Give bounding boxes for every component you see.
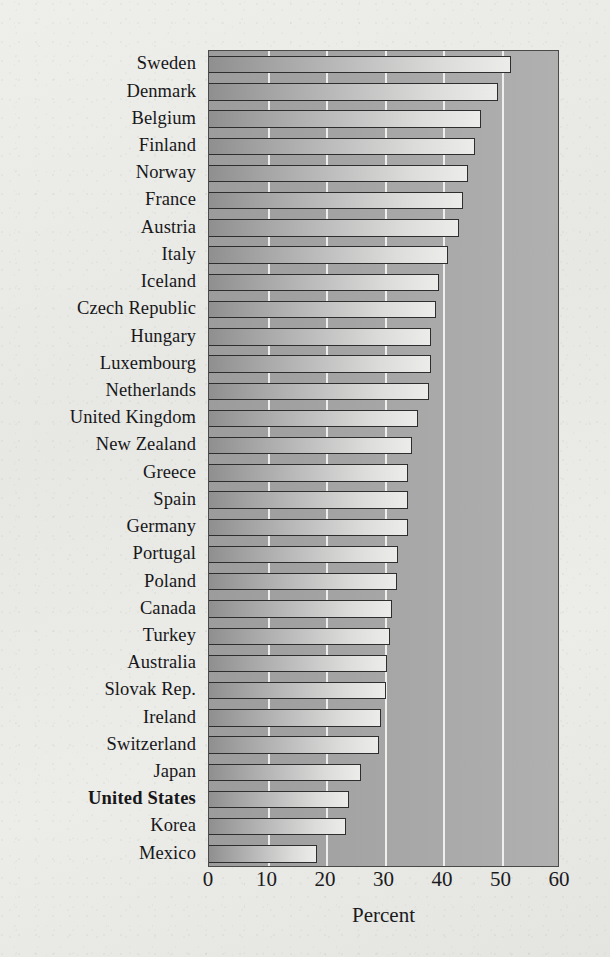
bar-row	[209, 731, 558, 758]
bar-mexico	[209, 845, 317, 862]
value-axis-ticks: 0102030405060	[208, 869, 559, 899]
bar-turkey	[209, 628, 390, 645]
category-label-poland: Poland	[0, 567, 202, 594]
category-axis-labels: SwedenDenmarkBelgiumFinlandNorwayFranceA…	[0, 50, 202, 867]
category-label-turkey: Turkey	[0, 622, 202, 649]
category-label-luxembourg: Luxembourg	[0, 349, 202, 376]
bar-row	[209, 541, 558, 568]
bar-row	[209, 323, 558, 350]
bar-row	[209, 595, 558, 622]
bar-iceland	[209, 274, 439, 291]
x-axis-title: Percent	[208, 903, 559, 928]
bar-ireland	[209, 709, 381, 726]
bar-portugal	[209, 546, 398, 563]
bar-korea	[209, 818, 346, 835]
bar-row	[209, 677, 558, 704]
bar-row	[209, 405, 558, 432]
bar-slovak-rep	[209, 682, 386, 699]
bar-row	[209, 759, 558, 786]
bar-row	[209, 514, 558, 541]
bar-row	[209, 350, 558, 377]
bar-row	[209, 187, 558, 214]
category-label-korea: Korea	[0, 812, 202, 839]
bar-row	[209, 160, 558, 187]
bar-united-states	[209, 791, 349, 808]
bar-germany	[209, 519, 408, 536]
category-label-ireland: Ireland	[0, 703, 202, 730]
bar-new-zealand	[209, 437, 412, 454]
bar-row	[209, 214, 558, 241]
x-tick-label-50: 50	[490, 869, 511, 890]
category-label-iceland: Iceland	[0, 268, 202, 295]
bar-spain	[209, 491, 408, 508]
bar-canada	[209, 600, 392, 617]
bar-finland	[209, 138, 475, 155]
category-label-austria: Austria	[0, 213, 202, 240]
bar-row	[209, 105, 558, 132]
category-label-mexico: Mexico	[0, 839, 202, 866]
category-label-united-states: United States	[0, 785, 202, 812]
category-label-united-kingdom: United Kingdom	[0, 404, 202, 431]
category-label-slovak-rep: Slovak Rep.	[0, 676, 202, 703]
bar-row	[209, 78, 558, 105]
bar-row	[209, 51, 558, 78]
bar-row	[209, 432, 558, 459]
bar-row	[209, 786, 558, 813]
bar-row	[209, 269, 558, 296]
bar-austria	[209, 219, 459, 236]
plot-area	[208, 50, 559, 867]
bar-chart: SwedenDenmarkBelgiumFinlandNorwayFranceA…	[0, 0, 610, 957]
bar-row	[209, 568, 558, 595]
bar-united-kingdom	[209, 410, 418, 427]
bar-australia	[209, 655, 387, 672]
bar-norway	[209, 165, 468, 182]
bar-row	[209, 813, 558, 840]
bar-luxembourg	[209, 355, 431, 372]
bar-row	[209, 487, 558, 514]
x-tick-label-10: 10	[256, 869, 277, 890]
bar-italy	[209, 246, 448, 263]
x-tick-label-60: 60	[549, 869, 570, 890]
category-label-greece: Greece	[0, 458, 202, 485]
bar-row	[209, 459, 558, 486]
bar-row	[209, 704, 558, 731]
bar-switzerland	[209, 736, 379, 753]
x-tick-label-0: 0	[203, 869, 214, 890]
x-tick-label-40: 40	[432, 869, 453, 890]
bar-row	[209, 650, 558, 677]
bar-czech-republic	[209, 301, 436, 318]
bar-row	[209, 840, 558, 867]
category-label-canada: Canada	[0, 594, 202, 621]
category-label-japan: Japan	[0, 758, 202, 785]
x-tick-label-30: 30	[373, 869, 394, 890]
category-label-italy: Italy	[0, 241, 202, 268]
category-label-france: France	[0, 186, 202, 213]
category-label-portugal: Portugal	[0, 540, 202, 567]
category-label-czech-republic: Czech Republic	[0, 295, 202, 322]
category-label-australia: Australia	[0, 649, 202, 676]
category-label-norway: Norway	[0, 159, 202, 186]
category-label-sweden: Sweden	[0, 50, 202, 77]
bar-row	[209, 296, 558, 323]
bar-france	[209, 192, 463, 209]
category-label-netherlands: Netherlands	[0, 377, 202, 404]
category-label-hungary: Hungary	[0, 322, 202, 349]
bar-netherlands	[209, 383, 429, 400]
bar-belgium	[209, 110, 481, 127]
category-label-spain: Spain	[0, 486, 202, 513]
bar-series	[209, 51, 558, 866]
category-label-germany: Germany	[0, 513, 202, 540]
bar-sweden	[209, 56, 511, 73]
category-label-switzerland: Switzerland	[0, 730, 202, 757]
bar-row	[209, 623, 558, 650]
bar-row	[209, 242, 558, 269]
category-label-belgium: Belgium	[0, 104, 202, 131]
bar-row	[209, 378, 558, 405]
bar-hungary	[209, 328, 431, 345]
bar-poland	[209, 573, 397, 590]
bar-japan	[209, 764, 361, 781]
category-label-finland: Finland	[0, 132, 202, 159]
category-label-denmark: Denmark	[0, 77, 202, 104]
category-label-new-zealand: New Zealand	[0, 431, 202, 458]
bar-denmark	[209, 83, 498, 100]
